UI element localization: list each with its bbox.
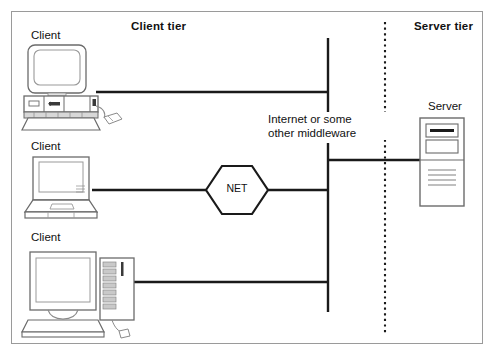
middleware-label-line-1: Internet or some <box>268 112 392 126</box>
mouse-cable-client3 <box>112 320 121 332</box>
laptop-front-lip <box>25 212 97 218</box>
tower-bay-6 <box>103 297 116 302</box>
tower-bay-5 <box>103 290 116 295</box>
client-label-1: Client <box>31 29 60 41</box>
middleware-label-line-2: other middleware <box>268 126 392 140</box>
client-tier-title: Client tier <box>131 20 186 32</box>
tower-bay-3 <box>103 276 116 281</box>
diagram-canvas: Client tier Server tier Client Client Cl… <box>0 0 496 360</box>
client-label-3: Client <box>31 231 60 243</box>
middleware-label: Internet or some other middleware <box>268 112 392 140</box>
tower-bay-4 <box>103 283 116 288</box>
desktop-keyboard-strip <box>24 112 98 118</box>
server-tier-title: Server tier <box>414 20 473 32</box>
desktop-monitor-screen <box>36 258 90 302</box>
mouse-client1 <box>104 113 122 124</box>
server-device-tower <box>420 118 464 206</box>
diagram-graphics <box>0 0 496 360</box>
client-device-monitor-tower <box>22 252 134 338</box>
tower-power-indicator-client3 <box>121 262 124 276</box>
keyboard-front-edge-client3 <box>22 332 104 337</box>
laptop-screen <box>39 162 83 192</box>
keyboard-client3 <box>22 320 104 332</box>
tower-bay-1 <box>103 262 116 267</box>
laptop-touchpad <box>50 204 74 209</box>
server-drive-bay-1-insert <box>430 129 454 132</box>
monitor-stand-curve <box>48 310 78 319</box>
tower-bay-2 <box>103 269 116 274</box>
client-label-2: Client <box>31 140 60 152</box>
desktop-base-stand <box>22 118 100 130</box>
case-drive-slot-1 <box>29 101 39 106</box>
crt-monitor-screen <box>34 50 80 85</box>
client-device-laptop <box>25 157 97 218</box>
tower-bay-7 <box>103 304 116 309</box>
net-node-label: NET <box>213 182 261 194</box>
client-device-crt-desktop <box>22 45 122 130</box>
case-power-indicator <box>93 99 97 106</box>
server-label: Server <box>428 100 462 112</box>
mouse-client3 <box>119 329 130 338</box>
server-drive-bay-2 <box>426 140 458 153</box>
